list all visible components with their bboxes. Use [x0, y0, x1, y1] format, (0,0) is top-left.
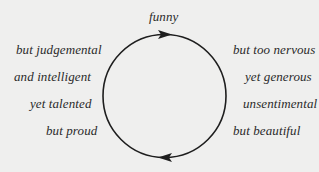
top-label: funny — [149, 10, 178, 24]
left-label-1: but judgemental — [16, 43, 102, 57]
right-label-1: but too nervous — [233, 43, 315, 57]
cycle-diagram: funny but judgemental and intelligent ye… — [0, 0, 319, 172]
right-label-4: but beautiful — [233, 124, 300, 138]
right-label-3: unsentimental — [243, 97, 317, 111]
left-label-4: but proud — [46, 124, 97, 138]
left-label-2: and intelligent — [14, 70, 91, 84]
cycle-circle — [0, 0, 319, 172]
right-label-2: yet generous — [245, 70, 312, 84]
left-label-3: yet talented — [30, 97, 91, 111]
